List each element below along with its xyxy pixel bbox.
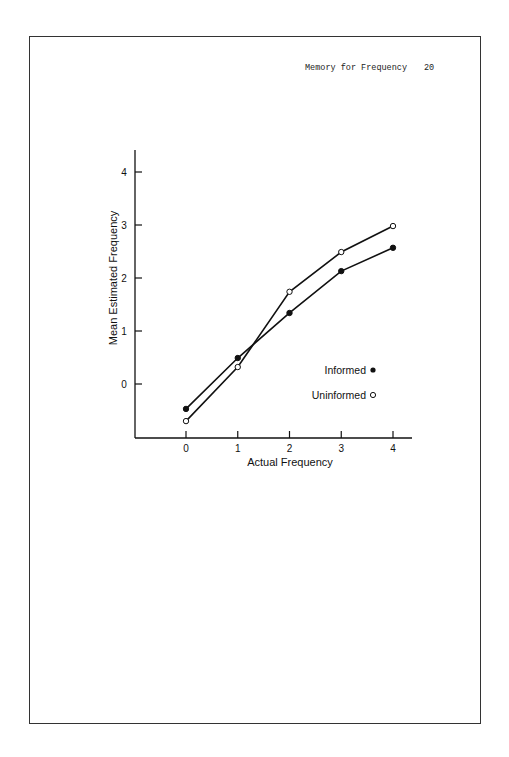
y-ticks: 01234 (121, 167, 142, 390)
x-tick-label: 2 (287, 443, 293, 454)
open-circle-icon (287, 289, 292, 294)
y-axis-label: Mean Estimated Frequency (107, 210, 119, 345)
legend-label-uninformed: Uninformed (312, 389, 366, 401)
x-tick-label: 0 (183, 443, 189, 454)
x-tick-label: 4 (390, 443, 396, 454)
filled-circle-icon (183, 406, 188, 411)
legend-item-uninformed: Uninformed (312, 389, 376, 401)
y-tick-label: 1 (121, 326, 127, 337)
open-circle-icon (390, 223, 395, 228)
open-circle-icon (183, 418, 188, 423)
filled-circle-icon (235, 355, 240, 360)
open-circle-icon (339, 249, 344, 254)
legend: Informed Uninformed (312, 364, 376, 401)
y-tick-label: 3 (121, 220, 127, 231)
x-ticks: 01234 (183, 431, 396, 454)
x-axis-label: Actual Frequency (247, 456, 333, 468)
filled-circle-icon (370, 367, 375, 372)
legend-item-informed: Informed (325, 364, 376, 376)
filled-circle-icon (287, 310, 292, 315)
filled-circle-icon (390, 245, 395, 250)
y-tick-label: 2 (121, 273, 127, 284)
line-chart: 01234 01234 Mean Estimated Frequency Act… (0, 0, 509, 757)
filled-circle-icon (339, 268, 344, 273)
x-tick-label: 3 (338, 443, 344, 454)
open-circle-icon (370, 392, 375, 397)
legend-label-informed: Informed (325, 364, 367, 376)
x-tick-label: 1 (235, 443, 241, 454)
series-line-informed (186, 248, 393, 409)
open-circle-icon (235, 364, 240, 369)
y-tick-label: 4 (121, 167, 127, 178)
y-tick-label: 0 (121, 379, 127, 390)
